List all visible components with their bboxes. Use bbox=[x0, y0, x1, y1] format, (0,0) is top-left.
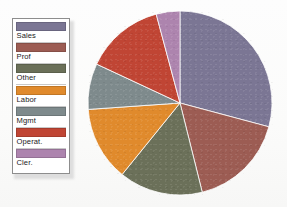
legend-item-label: Labor bbox=[16, 95, 66, 107]
legend-item[interactable]: Other bbox=[16, 64, 66, 85]
chart-legend[interactable]: SalesProfOtherLaborMgmtOperat.Cler. bbox=[12, 18, 70, 174]
screenshot-root: SalesProfOtherLaborMgmtOperat.Cler. bbox=[0, 0, 287, 207]
pie-chart-svg[interactable] bbox=[85, 8, 275, 198]
legend-color-swatch bbox=[16, 128, 66, 137]
legend-color-swatch bbox=[16, 64, 66, 73]
legend-item-label: Mgmt bbox=[16, 116, 66, 128]
legend-item[interactable]: Sales bbox=[16, 22, 66, 43]
legend-color-swatch bbox=[16, 22, 66, 31]
legend-color-swatch bbox=[16, 43, 66, 52]
legend-item-label: Prof bbox=[16, 52, 66, 64]
legend-item-label: Sales bbox=[16, 31, 66, 43]
legend-color-swatch bbox=[16, 149, 66, 158]
legend-color-swatch bbox=[16, 107, 66, 116]
legend-item[interactable]: Mgmt bbox=[16, 107, 66, 128]
legend-item[interactable]: Cler. bbox=[16, 149, 66, 170]
legend-item-label: Operat. bbox=[16, 137, 66, 149]
legend-item-label: Other bbox=[16, 73, 66, 85]
legend-item[interactable]: Prof bbox=[16, 43, 66, 64]
pie-chart[interactable] bbox=[85, 8, 275, 198]
legend-color-swatch bbox=[16, 86, 66, 95]
legend-item-label: Cler. bbox=[16, 158, 66, 169]
legend-item[interactable]: Operat. bbox=[16, 128, 66, 149]
legend-item[interactable]: Labor bbox=[16, 86, 66, 107]
